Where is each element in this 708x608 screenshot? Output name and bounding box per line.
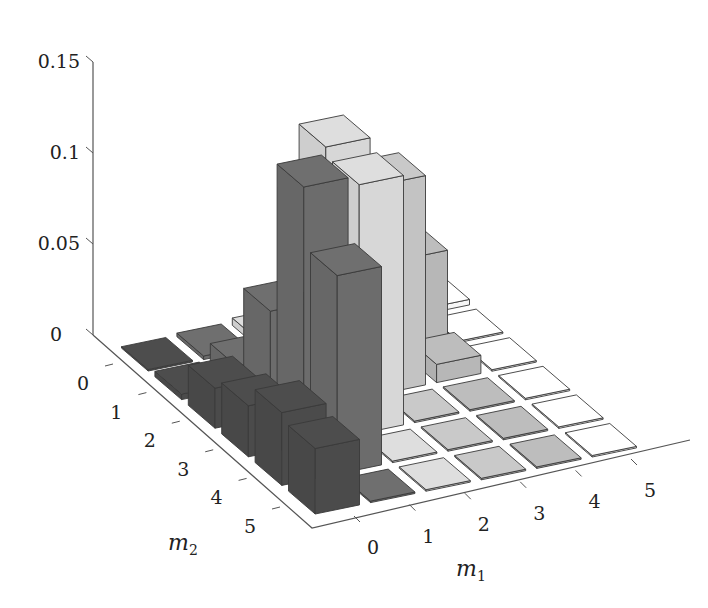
m1-axis-label: m1 [456,556,486,584]
m2-label-sub: 2 [189,542,198,558]
m2-tick-label: 0 [77,372,89,394]
m1-tick-label: 1 [422,525,434,547]
m1-label-sub: 1 [477,568,486,584]
m1-label-main: m [456,556,477,581]
m2-axis-label: m2 [168,530,198,558]
bar-m1-0-m2-5 [289,417,360,515]
m2-tick-label: 2 [144,429,156,451]
bar-m1-5-m2-4 [532,395,603,429]
bar-m1-4-m2-3 [443,378,514,412]
bar-m1-3-m2-4 [421,418,492,452]
m1-tick-label: 3 [533,502,545,524]
bar-m1-5-m2-3 [499,366,570,400]
m1-tick-label: 5 [644,479,656,501]
z-tick-0: 0 [50,323,62,345]
bar-m1-5-m2-5 [566,424,637,458]
m2-tick-label: 3 [177,458,189,480]
m2-tick-label: 1 [110,401,122,423]
m1-tick-label: 0 [367,536,379,558]
z-axis [86,56,93,335]
bar-m1-4-m2-4 [477,406,548,440]
m2-tick-label: 5 [244,515,256,537]
z-tick-01: 0.1 [50,141,80,163]
m1-tick-label: 2 [478,513,490,535]
bar3d-chart: 0 0.05 0.1 0.15 m2 m1 012345 012345 [0,0,708,608]
z-tick-005: 0.05 [38,232,80,254]
z-tick-015: 0.15 [38,50,80,72]
bar-m1-4-m2-5 [510,435,581,469]
m2-tick-label: 4 [211,486,223,508]
bars [122,115,637,514]
m2-label-main: m [168,530,189,555]
bar-m1-3-m2-5 [455,446,526,480]
m1-tick-label: 4 [589,490,601,512]
bar-m1-2-m2-5 [399,458,470,492]
